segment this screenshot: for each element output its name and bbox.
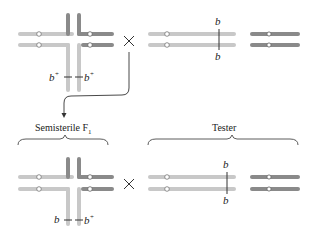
brace-tester — [148, 135, 298, 145]
gene-label-top-left: b+ — [49, 70, 59, 83]
label-semisterile-f1: Semisterile F1 — [35, 122, 92, 136]
cross-symbol-bottom — [124, 179, 134, 189]
gene-label-tester-top-upper: b — [215, 15, 221, 27]
bottom-translocation-figure — [20, 159, 112, 224]
gene-label-bottom-right: b+ — [84, 213, 94, 226]
cross-symbol-top — [124, 36, 134, 46]
gene-label-top-right: b+ — [84, 70, 94, 83]
top-tester-figure — [150, 29, 298, 50]
gene-label-tester-bottom-lower: b — [223, 194, 229, 206]
gene-label-tester-top-lower: b — [215, 50, 221, 62]
gene-label-tester-bottom-upper: b — [223, 158, 229, 170]
label-tester: Tester — [212, 122, 236, 133]
diagram-canvas — [0, 0, 317, 237]
top-translocation-figure — [20, 15, 112, 90]
gene-label-bottom-left: b — [54, 213, 60, 225]
bottom-tester-figure — [150, 172, 298, 194]
cross-arrow — [62, 52, 130, 118]
brace-semisterile — [18, 135, 108, 145]
